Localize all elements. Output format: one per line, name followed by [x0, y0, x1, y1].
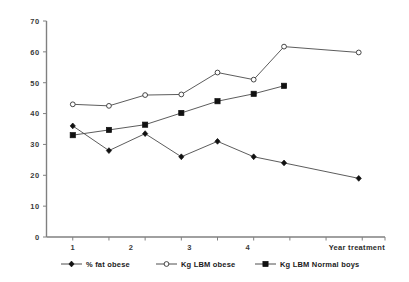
y-tick-label: 0 [35, 233, 40, 242]
series-fat-obese [70, 123, 361, 181]
x-tick-label: 3 [187, 243, 192, 252]
legend-marker [164, 262, 169, 267]
legend-label: % fat obese [86, 260, 130, 269]
legend-item[interactable]: % fat obese [61, 260, 130, 269]
data-point [143, 131, 148, 137]
data-point [179, 154, 184, 160]
y-axis-group: 010203040506070 [30, 17, 46, 242]
legend-item[interactable]: Kg LBM Normal boys [255, 260, 359, 269]
y-tick-label: 50 [30, 79, 39, 88]
y-tick-label: 30 [30, 140, 39, 149]
data-point [215, 70, 220, 75]
data-point [106, 127, 111, 132]
data-point [143, 93, 148, 98]
line-chart-plot: 010203040506070 1234 Year treatment % fa… [0, 0, 409, 282]
x-axis-title: Year treatment [329, 243, 386, 252]
legend-item[interactable]: Kg LBM obese [156, 260, 236, 269]
y-tick-label: 20 [30, 171, 39, 180]
data-point [251, 91, 256, 96]
data-point [70, 123, 75, 129]
data-point [356, 175, 361, 181]
legend-marker [263, 261, 268, 266]
data-point [281, 83, 286, 88]
x-tick-label: 1 [70, 243, 75, 252]
data-point [143, 122, 148, 127]
data-point [107, 103, 112, 108]
data-series-layer [70, 44, 361, 181]
series-line [73, 126, 359, 178]
x-tick-label: 4 [246, 243, 251, 252]
data-point [179, 110, 184, 115]
x-tick-label: 2 [129, 243, 134, 252]
data-point [356, 50, 361, 55]
chart-container: 010203040506070 1234 Year treatment % fa… [0, 0, 409, 282]
series-kg-lbm-normal-boys [70, 83, 286, 138]
series-line [73, 47, 359, 106]
data-point [215, 138, 220, 144]
data-point [251, 154, 256, 160]
chart-legend: % fat obeseKg LBM obeseKg LBM Normal boy… [61, 260, 359, 269]
y-tick-label: 10 [30, 202, 39, 211]
data-point [70, 133, 75, 138]
y-tick-label: 40 [30, 109, 39, 118]
data-point [106, 148, 111, 154]
legend-marker [69, 261, 74, 267]
legend-label: Kg LBM Normal boys [280, 260, 359, 269]
data-point [70, 102, 75, 107]
legend-label: Kg LBM obese [181, 260, 236, 269]
y-tick-label: 60 [30, 48, 39, 57]
data-point [179, 92, 184, 97]
y-tick-label: 70 [30, 17, 39, 26]
data-point [251, 77, 256, 82]
data-point [282, 44, 287, 49]
data-point [281, 160, 286, 166]
y-axis-ticks: 010203040506070 [30, 17, 46, 242]
data-point [215, 99, 220, 104]
